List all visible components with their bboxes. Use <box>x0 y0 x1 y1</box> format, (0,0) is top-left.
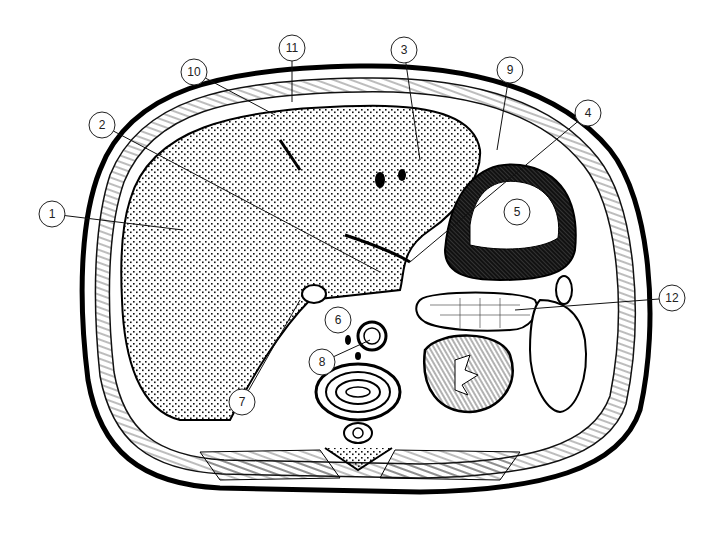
callout-label: 6 <box>335 313 342 327</box>
callout-label: 1 <box>49 207 56 221</box>
callout-5: 5 <box>504 199 530 225</box>
left-kidney <box>424 336 512 412</box>
callout-6: 6 <box>325 307 351 333</box>
callout-label: 11 <box>286 41 299 55</box>
callout-label: 12 <box>665 291 679 305</box>
callout-label: 10 <box>187 65 201 79</box>
callout-label: 5 <box>514 205 521 219</box>
callout-label: 7 <box>239 395 246 409</box>
anatomy-figure: 123456789101112 <box>0 0 724 540</box>
pancreas <box>416 293 537 331</box>
callout-label: 2 <box>99 118 106 132</box>
callout-label: 8 <box>319 355 326 369</box>
callout-label: 9 <box>507 63 514 77</box>
callout-label: 3 <box>401 43 408 57</box>
callout-label: 4 <box>585 106 592 120</box>
